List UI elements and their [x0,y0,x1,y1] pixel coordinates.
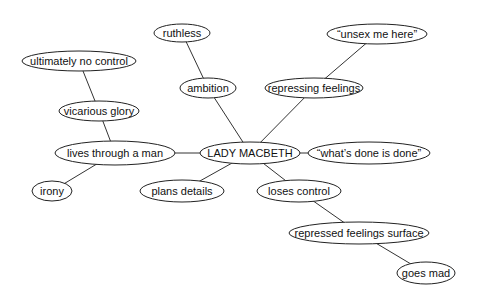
node-label: irony [40,185,64,197]
node-label: plans details [151,185,213,197]
node-label: LADY MACBETH [207,147,292,159]
node-label: “what’s done is done” [317,147,422,159]
node-ultimately-no-control: ultimately no control [22,51,136,71]
concept-map: ruthlessultimately no controlambition“un… [0,0,483,306]
node-irony: irony [32,181,72,201]
node-label: ruthless [163,27,202,39]
node-loses-control: loses control [257,180,341,202]
node-lady-macbeth: LADY MACBETH [200,142,300,164]
node-label: lives through a man [67,147,163,159]
node-label: ambition [187,82,229,94]
node-repressing-feelings: repressing feelings [265,78,363,98]
node-label: repressing feelings [268,82,361,94]
node-ruthless: ruthless [154,24,210,42]
node-lives-through-a-man: lives through a man [55,141,175,165]
node-ambition: ambition [180,78,236,98]
node-unsex-me-here: “unsex me here” [327,24,427,44]
node-label: vicarious glory [64,105,135,117]
node-goes-mad: goes mad [397,262,455,284]
node-label: ultimately no control [30,55,128,67]
node-vicarious-glory: vicarious glory [59,101,139,121]
node-label: loses control [268,185,330,197]
node-label: repressed feelings surface [294,227,423,239]
node-plans-details: plans details [140,180,224,202]
node-label: goes mad [402,267,450,279]
node-repressed-feelings-surface: repressed feelings surface [289,222,429,244]
node-whats-done-is-done: “what’s done is done” [308,142,430,164]
node-label: “unsex me here” [337,28,417,40]
nodes-layer: ruthlessultimately no controlambition“un… [22,24,455,284]
